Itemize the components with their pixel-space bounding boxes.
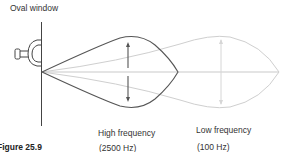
low-frequency-hz: (100 Hz): [197, 142, 230, 152]
low-frequency-label: Low frequency: [196, 125, 251, 135]
oval-window-icon: [15, 22, 42, 126]
figure-caption: Figure 25.9: [0, 142, 42, 152]
high-frequency-label: High frequency: [98, 128, 155, 138]
high-frequency-hz: (2500 Hz): [99, 143, 136, 152]
